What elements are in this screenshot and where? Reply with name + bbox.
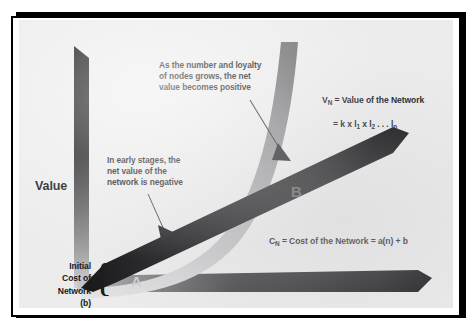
curve-label-a: A bbox=[131, 273, 142, 290]
value-formula-sub1: 1 bbox=[356, 123, 359, 130]
diagram-canvas: As the number and loyalty of nodes grows… bbox=[0, 0, 472, 325]
cost-formula-symbol-sub: N bbox=[275, 240, 280, 247]
diagram-page: As the number and loyalty of nodes grows… bbox=[19, 20, 453, 308]
cost-formula: CN = Cost of the Network = a(n) + b bbox=[269, 223, 453, 247]
value-formula-tail: . . . l bbox=[375, 119, 393, 129]
value-formula: VN = Value of the Network = k x l1 x l2 … bbox=[322, 82, 453, 130]
value-formula-symbol: V bbox=[322, 95, 328, 105]
y-axis-bar bbox=[74, 46, 89, 288]
value-formula-line1: = Value of the Network bbox=[332, 95, 424, 105]
curve-label-b: B bbox=[291, 183, 302, 200]
value-formula-line2: = k x l bbox=[322, 118, 356, 130]
annotation-early-text: In early stages, the net value of the ne… bbox=[107, 155, 222, 189]
cost-formula-line1: = Cost of the Network = a(n) + b bbox=[280, 236, 408, 246]
value-formula-sub3: n bbox=[393, 123, 397, 130]
initial-cost-label: Initial Cost of Network (b) bbox=[25, 260, 91, 308]
value-formula-mid: x l bbox=[360, 119, 372, 129]
annotation-growth-text: As the number and loyalty of nodes grows… bbox=[159, 60, 304, 94]
initial-cost-brace: { bbox=[93, 258, 112, 298]
value-formula-sub2: 2 bbox=[371, 123, 374, 130]
y-axis-label: Value bbox=[35, 178, 67, 195]
value-formula-symbol-sub: N bbox=[328, 99, 333, 106]
cost-line-band bbox=[81, 127, 409, 292]
